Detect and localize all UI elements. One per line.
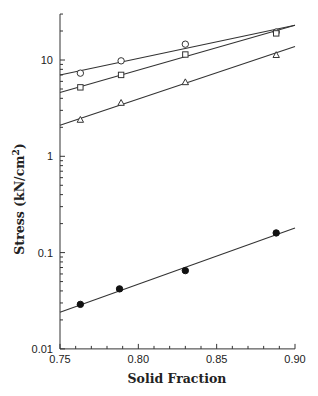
axes: 0.010.1110 0.750.800.850.90 bbox=[32, 14, 306, 365]
open-triangle-marker bbox=[118, 100, 124, 106]
data-markers bbox=[77, 29, 279, 308]
x-tick-label: 0.90 bbox=[284, 353, 305, 365]
x-tick-label: 0.85 bbox=[206, 353, 227, 365]
filled-circle-marker bbox=[77, 301, 83, 307]
x-axis-ticks: 0.750.800.850.90 bbox=[49, 344, 305, 365]
y-tick-label: 10 bbox=[41, 54, 53, 66]
y-axis-title-close: ) bbox=[12, 143, 27, 149]
x-tick-label: 0.80 bbox=[128, 353, 149, 365]
x-axis-title: Solid Fraction bbox=[128, 371, 227, 386]
open-circle-fit-line bbox=[60, 25, 295, 75]
open-square-marker bbox=[183, 52, 188, 57]
y-tick-label: 1 bbox=[47, 150, 53, 162]
filled-circle-marker bbox=[182, 267, 188, 273]
open-circle-marker bbox=[182, 41, 188, 47]
open-triangle-marker bbox=[182, 79, 188, 85]
open-square-marker bbox=[274, 31, 279, 36]
fit-lines bbox=[60, 25, 295, 312]
filled-circle-marker bbox=[116, 286, 122, 292]
open-circle-marker bbox=[118, 58, 124, 64]
open-circle-marker bbox=[77, 70, 83, 76]
x-tick-label: 0.75 bbox=[49, 353, 70, 365]
y-axis-title: Stress (kN/cm2) bbox=[11, 143, 27, 254]
filled-circle-marker bbox=[273, 230, 279, 236]
filled-circle-fit-line bbox=[60, 228, 295, 312]
stress-vs-solid-fraction-chart: 0.010.1110 0.750.800.850.90 Solid Fracti… bbox=[0, 0, 318, 396]
y-tick-label: 0.1 bbox=[38, 247, 53, 259]
open-square-marker bbox=[118, 72, 123, 77]
y-axis-title-main: Stress (kN/cm bbox=[12, 156, 27, 255]
open-square-marker bbox=[78, 85, 83, 90]
